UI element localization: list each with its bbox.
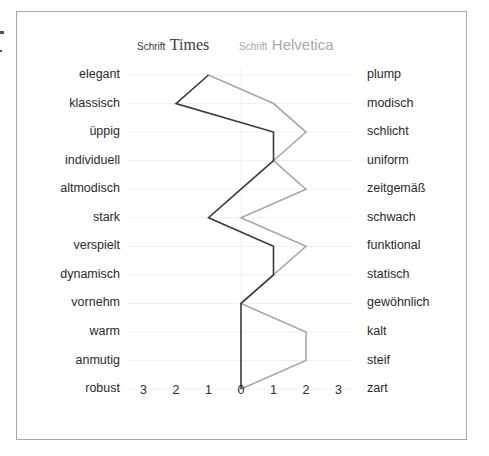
x-tick-label: 2 [299,383,313,397]
right-pole-label: zeitgemäß [367,181,425,195]
right-pole-label: plump [367,67,401,81]
left-pole-label: dynamisch [0,267,120,281]
x-tick-label: 3 [332,383,346,397]
left-pole-label: vornehm [0,295,120,309]
left-pole-label: üppig [0,124,120,138]
left-pole-label: stark [0,210,120,224]
x-tick-label: 1 [267,383,281,397]
right-pole-label: schwach [367,210,416,224]
series-line-schrift-times [176,75,274,389]
right-pole-label: schlicht [367,124,409,138]
right-pole-label: uniform [367,153,409,167]
left-pole-label: verspielt [0,238,120,252]
right-pole-label: statisch [367,267,409,281]
left-pole-label: altmodisch [0,181,120,195]
right-pole-label: modisch [367,96,414,110]
left-pole-label: robust [0,381,120,395]
right-pole-label: kalt [367,324,386,338]
left-pole-label: klassisch [0,96,120,110]
x-tick-label: 2 [169,383,183,397]
left-pole-label: anmutig [0,353,120,367]
left-pole-label: warm [0,324,120,338]
x-tick-label: 3 [137,383,151,397]
left-pole-label: individuell [0,153,120,167]
right-pole-label: zart [367,381,388,395]
left-pole-label: elegant [0,67,120,81]
right-pole-label: gewöhnlich [367,295,430,309]
right-pole-label: funktional [367,238,421,252]
x-tick-label: 1 [202,383,216,397]
right-pole-label: steif [367,353,390,367]
x-tick-label: 0 [234,383,248,397]
series-line-schrift-helvetica [209,75,307,389]
